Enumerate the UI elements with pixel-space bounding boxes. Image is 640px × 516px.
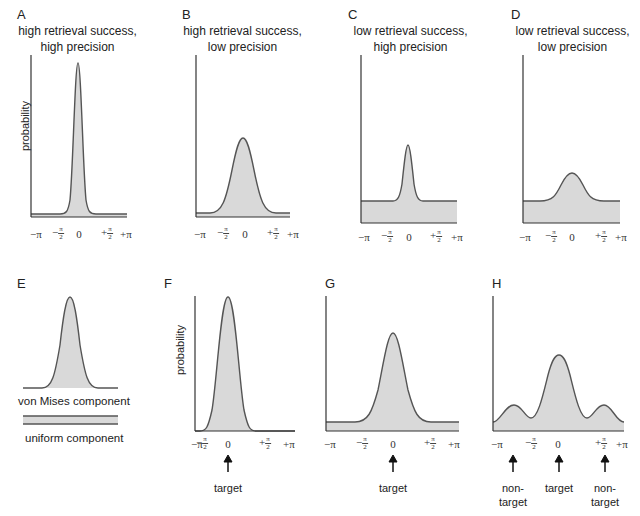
fraction-den: 2 (223, 234, 229, 241)
target-label-g: target (379, 481, 407, 495)
fraction-den: 2 (265, 444, 271, 451)
fraction-den: 2 (58, 234, 64, 241)
non-target-label-line1: non- (499, 481, 527, 495)
tick-plus-pi: +π (448, 438, 460, 450)
fraction: π2 (58, 226, 64, 241)
fraction: π2 (362, 436, 368, 451)
tick-minus-half-pi: −π2 (545, 229, 557, 244)
tick-minus-half-pi: −π2 (52, 226, 64, 241)
panel-c-title-line2: high precision (333, 39, 488, 55)
tick-minus-half-pi: −π2 (217, 226, 229, 241)
tick-minus-pi: −π (358, 231, 370, 243)
tick-zero: 0 (242, 228, 248, 240)
panel-a-title-line2: high precision (0, 39, 155, 55)
panel-b-title-line2: low precision (165, 39, 320, 55)
fraction: π2 (387, 229, 393, 244)
panel-f-plot (194, 296, 295, 431)
tick-zero: 0 (76, 228, 82, 240)
fraction: π2 (107, 226, 113, 241)
fraction-den: 2 (362, 444, 368, 451)
tick-plus-half-pi: +π2 (595, 229, 607, 244)
fraction-den: 2 (531, 444, 537, 451)
non-target-label-left: non- target (499, 481, 527, 509)
panel-d-plot (523, 55, 620, 223)
tick-plus-half-pi: +π2 (101, 226, 113, 241)
fraction-den: 2 (436, 237, 442, 244)
tick-plus-pi: +π (120, 228, 132, 240)
fraction: π2 (223, 226, 229, 241)
fraction-den: 2 (273, 234, 279, 241)
non-target-label-right: non- target (591, 481, 619, 509)
tick-minus-half-pi: −π2 (196, 436, 208, 451)
tick-plus-half-pi: +π2 (267, 226, 279, 241)
tick-plus-pi: +π (616, 438, 628, 450)
panel-a-plot (31, 55, 127, 217)
tick-zero: 0 (225, 438, 231, 450)
fraction-den: 2 (387, 237, 393, 244)
fraction-den: 2 (202, 444, 208, 451)
panel-letter-a: A (17, 7, 26, 22)
non-target-label-line1: non- (591, 481, 619, 495)
tick-minus-pi: −π (491, 438, 503, 450)
panel-letter-h: H (492, 276, 501, 291)
fraction: π2 (551, 229, 557, 244)
panel-letter-c: C (348, 7, 357, 22)
tick-plus-pi: +π (615, 231, 627, 243)
arrows (224, 455, 609, 472)
tick-minus-half-pi: −π2 (356, 436, 368, 451)
target-label-f: target (214, 481, 242, 495)
panel-h-plot (493, 296, 624, 431)
fraction-den: 2 (601, 237, 607, 244)
tick-plus-half-pi: +π2 (595, 436, 607, 451)
panel-letter-f: F (164, 276, 172, 291)
panel-b-title-line1: high retrieval success, (165, 23, 320, 39)
fraction-den: 2 (601, 444, 607, 451)
panel-letter-d: D (511, 7, 520, 22)
panel-letter-b: B (182, 7, 191, 22)
tick-minus-pi: −π (324, 438, 336, 450)
fraction-den: 2 (107, 234, 113, 241)
uniform-component-label: uniform component (25, 432, 123, 444)
panel-b-title: high retrieval success, low precision (165, 23, 320, 55)
panel-d-title-line2: low precision (495, 39, 640, 55)
tick-minus-pi: −π (30, 228, 42, 240)
tick-plus-half-pi: +π2 (424, 436, 436, 451)
panel-a-title-line1: high retrieval success, (0, 23, 155, 39)
tick-plus-half-pi: +π2 (430, 229, 442, 244)
panel-c-plot (361, 55, 457, 223)
panel-c-title: low retrieval success, high precision (333, 23, 488, 55)
tick-zero: 0 (406, 231, 412, 243)
tick-plus-pi: +π (451, 231, 463, 243)
fraction: π2 (430, 436, 436, 451)
panel-a-title: high retrieval success, high precision (0, 23, 155, 55)
non-target-label-line2: target (591, 495, 619, 509)
panel-b-plot (196, 55, 290, 217)
fraction: π2 (202, 436, 208, 451)
tick-zero: 0 (390, 438, 396, 450)
tick-zero: 0 (555, 438, 561, 450)
tick-plus-half-pi: +π2 (259, 436, 271, 451)
fraction: π2 (601, 436, 607, 451)
tick-minus-half-pi: −π2 (381, 229, 393, 244)
panel-c-title-line1: low retrieval success, (333, 23, 488, 39)
tick-plus-pi: +π (283, 438, 295, 450)
tick-minus-pi: −π (194, 228, 206, 240)
tick-zero: 0 (569, 231, 575, 243)
y-axis-label-a: probability (19, 96, 31, 156)
fraction: π2 (273, 226, 279, 241)
fraction: π2 (601, 229, 607, 244)
non-target-label-line2: target (499, 495, 527, 509)
fraction: π2 (436, 229, 442, 244)
panel-letter-e: E (17, 276, 26, 291)
fraction: π2 (531, 436, 537, 451)
panel-g-plot (326, 296, 459, 431)
panel-letter-g: G (325, 276, 335, 291)
fraction-den: 2 (430, 444, 436, 451)
tick-minus-half-pi: −π2 (525, 436, 537, 451)
tick-plus-pi: +π (287, 228, 299, 240)
panel-d-title: low retrieval success, low precision (495, 23, 640, 55)
tick-minus-pi: −π (519, 231, 531, 243)
target-label-h: target (545, 481, 573, 495)
fraction-den: 2 (551, 237, 557, 244)
y-axis-label-f: probability (174, 320, 186, 380)
